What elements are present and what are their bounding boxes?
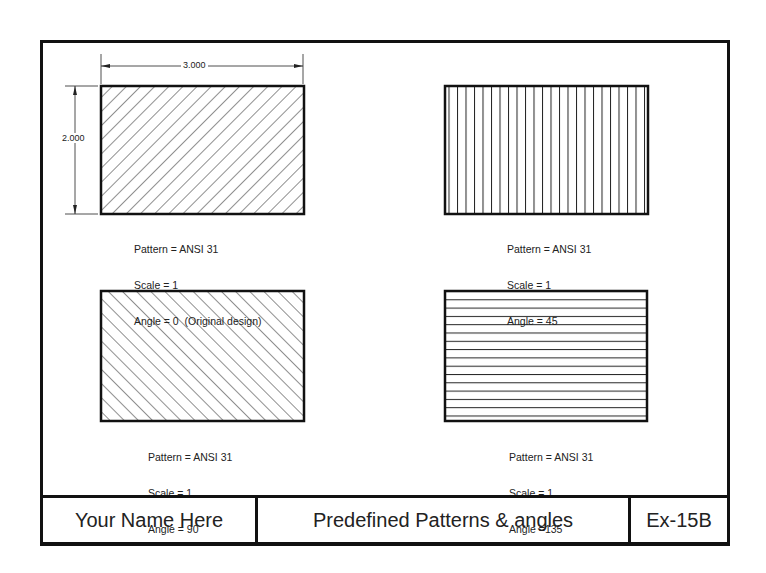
drawing-canvas xyxy=(0,0,766,573)
height-dimension xyxy=(65,86,98,214)
drawing-number: Ex-15B xyxy=(631,498,727,543)
pattern-text: Pattern = ANSI 31 xyxy=(509,451,593,463)
scale-text: Scale = 1 xyxy=(507,279,591,291)
drawing-title: Predefined Patterns & angles xyxy=(258,498,631,543)
pattern-text: Pattern = ANSI 31 xyxy=(507,243,591,255)
panel-label-top-right: Pattern = ANSI 31 Scale = 1 Angle = 45 xyxy=(507,219,591,339)
angle-text: Angle = 0 (Original design) xyxy=(134,315,262,327)
height-dimension-label: 2.000 xyxy=(60,133,87,143)
author-name: Your Name Here xyxy=(43,498,258,543)
panel-label-top-left: Pattern = ANSI 31 Scale = 1 Angle = 0 (O… xyxy=(134,219,262,339)
width-dimension-label: 3.000 xyxy=(181,60,208,70)
scale-text: Scale = 1 xyxy=(134,279,262,291)
title-block: Your Name Here Predefined Patterns & ang… xyxy=(40,495,730,546)
pattern-text: Pattern = ANSI 31 xyxy=(134,243,262,255)
hatch-panel-angle-0 xyxy=(101,86,304,214)
hatch-panel-angle-45 xyxy=(445,86,648,214)
pattern-text: Pattern = ANSI 31 xyxy=(148,451,232,463)
angle-text: Angle = 45 xyxy=(507,315,591,327)
